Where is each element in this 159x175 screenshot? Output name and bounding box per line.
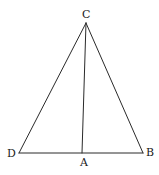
- segment-cd: [19, 23, 86, 153]
- vertex-label-c: C: [82, 8, 90, 21]
- segment-cb: [86, 23, 143, 153]
- vertex-label-b: B: [146, 146, 154, 159]
- segment-ca: [82, 23, 86, 153]
- vertex-label-d: D: [7, 147, 16, 160]
- triangle-diagram: C D A B: [0, 0, 159, 175]
- point-label-a: A: [79, 156, 89, 169]
